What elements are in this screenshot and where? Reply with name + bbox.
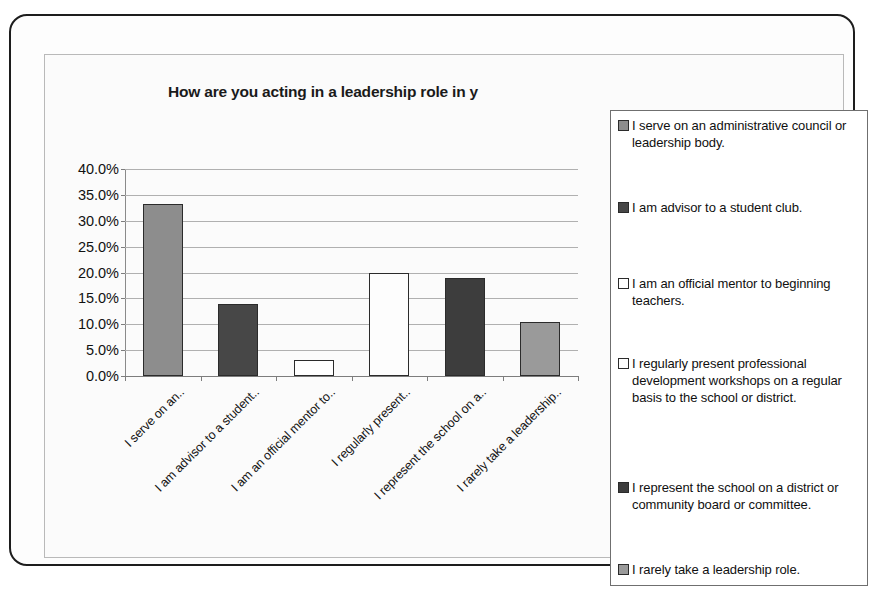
legend-label: I represent the school on a district or …	[632, 479, 862, 513]
y-axis-tick	[121, 195, 125, 196]
bar[interactable]	[294, 360, 334, 376]
gridline	[125, 350, 578, 351]
gridline	[125, 195, 578, 196]
y-axis-tick	[121, 273, 125, 274]
outer-frame: How are you acting in a leadership role …	[9, 14, 855, 566]
chart-title: How are you acting in a leadership role …	[55, 83, 591, 101]
y-axis-tick	[121, 350, 125, 351]
legend-item[interactable]: I am an official mentor to beginning tea…	[618, 275, 862, 309]
legend-label: I rarely take a leadership role.	[632, 561, 800, 578]
y-axis-tick-label: 35.0%	[57, 188, 119, 203]
chart-legend[interactable]: I serve on an administrative council or …	[610, 110, 868, 586]
bar[interactable]	[520, 322, 560, 376]
y-axis-tick	[121, 298, 125, 299]
legend-swatch	[618, 120, 629, 131]
legend-item[interactable]: I am advisor to a student club.	[618, 199, 862, 216]
legend-swatch	[618, 482, 629, 493]
gridline	[125, 298, 578, 299]
legend-item[interactable]: I regularly present professional develop…	[618, 355, 862, 406]
legend-item[interactable]: I rarely take a leadership role.	[618, 561, 862, 578]
bar[interactable]	[143, 204, 183, 376]
legend-label: I serve on an administrative council or …	[632, 117, 862, 151]
bar[interactable]	[369, 273, 409, 377]
legend-item[interactable]: I serve on an administrative council or …	[618, 117, 862, 151]
y-axis-tick-label: 25.0%	[57, 240, 119, 255]
y-axis-tick-label: 20.0%	[57, 266, 119, 281]
legend-label: I am advisor to a student club.	[632, 199, 802, 216]
bar[interactable]	[445, 278, 485, 376]
plot-area	[125, 169, 578, 376]
gridline	[125, 273, 578, 274]
gridline	[125, 247, 578, 248]
legend-swatch	[618, 202, 629, 213]
y-axis-tick	[121, 247, 125, 248]
x-axis-category-label: I serve on an..	[122, 385, 187, 450]
y-axis-tick	[121, 324, 125, 325]
x-axis-labels: I serve on an..I am advisor to a student…	[125, 377, 585, 547]
y-axis-labels: 40.0%35.0%30.0%25.0%20.0%15.0%10.0%5.0%0…	[53, 169, 119, 376]
y-axis-tick-label: 30.0%	[57, 214, 119, 229]
bar[interactable]	[218, 304, 258, 376]
gridline	[125, 221, 578, 222]
y-axis-tick-label: 10.0%	[57, 317, 119, 332]
chart-object[interactable]: How are you acting in a leadership role …	[44, 54, 844, 558]
legend-swatch	[618, 564, 629, 575]
y-axis-tick-label: 40.0%	[57, 162, 119, 177]
y-axis-tick	[121, 221, 125, 222]
y-axis-tick-label: 0.0%	[57, 369, 119, 384]
legend-label: I am an official mentor to beginning tea…	[632, 275, 862, 309]
legend-label: I regularly present professional develop…	[632, 355, 862, 406]
y-axis-tick-label: 15.0%	[57, 291, 119, 306]
x-axis-category-label: I regularly present..	[329, 385, 413, 469]
gridline	[125, 324, 578, 325]
gridline	[125, 169, 578, 170]
legend-swatch	[618, 278, 629, 289]
legend-item[interactable]: I represent the school on a district or …	[618, 479, 862, 513]
y-axis-tick	[121, 169, 125, 170]
legend-swatch	[618, 358, 629, 369]
y-axis-tick-label: 5.0%	[57, 343, 119, 358]
